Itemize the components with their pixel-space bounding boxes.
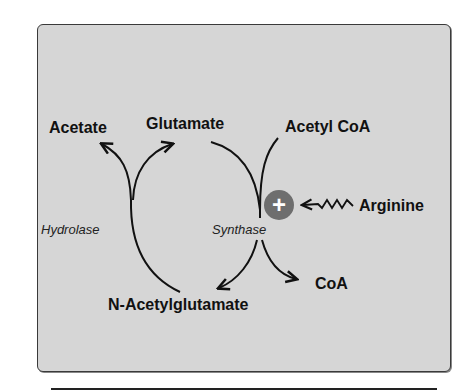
node-coa: CoA <box>315 276 348 292</box>
node-n-acetylglutamate: N-Acetylglutamate <box>108 297 248 313</box>
node-glutamate: Glutamate <box>146 116 224 132</box>
node-acetyl-coa: Acetyl CoA <box>285 119 370 135</box>
arginine-activation-squiggle <box>303 200 353 208</box>
arrow-to-glutamate <box>133 144 172 200</box>
enzyme-synthase: Synthase <box>212 223 266 236</box>
glutamate-into-synthase-arc <box>211 142 260 210</box>
node-acetate: Acetate <box>49 120 107 136</box>
node-arginine: Arginine <box>359 198 424 214</box>
arrow-to-n-acetylglutamate <box>219 240 257 288</box>
arrow-to-coa <box>262 240 296 279</box>
activator-plus-icon: + <box>264 190 294 220</box>
hydrolase-main-arc <box>131 200 180 292</box>
arrow-to-acetate <box>102 144 131 200</box>
enzyme-hydrolase: Hydrolase <box>41 223 100 236</box>
caption-divider <box>51 388 437 390</box>
pathway-arrows <box>0 0 475 391</box>
